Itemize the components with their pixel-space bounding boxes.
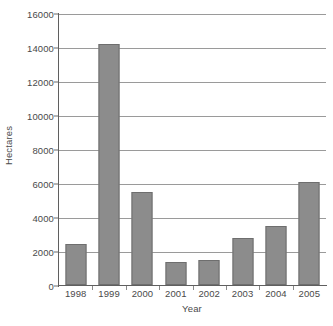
y-axis-tick-label: 6000	[32, 179, 54, 190]
x-axis-tick-labels: 19981999200020012002200320042005	[58, 288, 326, 304]
x-axis-tick-label: 2005	[299, 288, 321, 299]
bar	[65, 244, 86, 285]
x-axis-tick-label: 1999	[98, 288, 120, 299]
bar-chart-figure: Hectares 0200040006000800010000120001400…	[0, 0, 333, 326]
y-axis-tick-label: 12000	[27, 77, 54, 88]
x-axis-tick-label: 2001	[165, 288, 187, 299]
y-axis-tick-labels: 0200040006000800010000120001400016000	[16, 0, 58, 300]
x-axis-tick-label: 2003	[232, 288, 254, 299]
x-axis-tick-label: 2002	[198, 288, 220, 299]
y-axis-title-text: Hectares	[4, 125, 15, 164]
y-axis-tick-label: 10000	[27, 111, 54, 122]
x-axis-tick-label: 2000	[132, 288, 154, 299]
y-axis-tick-label: 2000	[32, 247, 54, 258]
bar	[165, 262, 186, 285]
bar-slot	[193, 14, 226, 285]
plot-area	[58, 14, 326, 286]
y-axis-tick-label: 14000	[27, 43, 54, 54]
bar-slot	[259, 14, 292, 285]
bar-slot	[59, 14, 92, 285]
x-axis-tick-label: 1998	[65, 288, 87, 299]
x-axis-tick-label: 2004	[265, 288, 287, 299]
y-axis-tick-label: 8000	[32, 145, 54, 156]
bar-slot	[126, 14, 159, 285]
bar	[232, 238, 253, 285]
bar-slot	[92, 14, 125, 285]
bar-slot	[226, 14, 259, 285]
bar	[299, 182, 320, 285]
y-axis-tick-label: 4000	[32, 213, 54, 224]
bar	[99, 44, 120, 285]
y-axis-tick-label: 16000	[27, 9, 54, 20]
bar-slot	[159, 14, 192, 285]
x-axis-title: Year	[58, 303, 326, 314]
bar	[132, 192, 153, 285]
bar-series	[59, 14, 326, 285]
bar	[265, 226, 286, 286]
bar-slot	[293, 14, 326, 285]
bar	[199, 260, 220, 286]
